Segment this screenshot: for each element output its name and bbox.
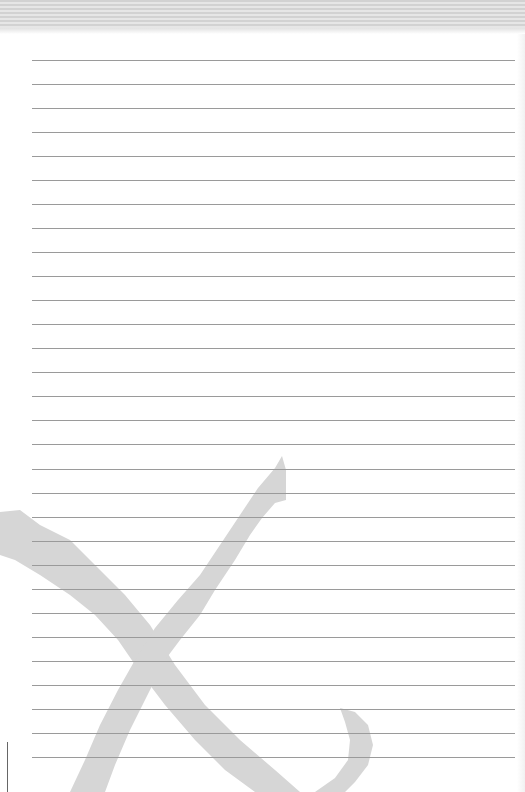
ruled-line bbox=[32, 252, 515, 253]
ruled-line bbox=[32, 637, 515, 638]
ruled-line bbox=[32, 300, 515, 301]
ruled-line bbox=[32, 661, 515, 662]
ruled-line bbox=[32, 541, 515, 542]
ruled-line bbox=[32, 444, 515, 445]
ruled-line bbox=[32, 180, 515, 181]
ruled-line bbox=[32, 469, 515, 470]
ruled-line bbox=[32, 613, 515, 614]
margin-bar bbox=[7, 742, 8, 792]
ruled-line bbox=[32, 108, 515, 109]
ruled-line bbox=[32, 685, 515, 686]
ruled-line bbox=[32, 589, 515, 590]
ruled-line bbox=[32, 204, 515, 205]
ruled-line bbox=[32, 276, 515, 277]
ruled-line bbox=[32, 348, 515, 349]
ruled-line bbox=[32, 757, 515, 758]
ruled-line bbox=[32, 493, 515, 494]
ruled-line bbox=[32, 517, 515, 518]
ruled-line bbox=[32, 60, 515, 61]
ruled-line bbox=[32, 84, 515, 85]
ruled-line bbox=[32, 709, 515, 710]
ruled-line bbox=[32, 228, 515, 229]
ruled-line bbox=[32, 132, 515, 133]
ruled-line bbox=[32, 565, 515, 566]
ruled-line bbox=[32, 396, 515, 397]
ruled-line bbox=[32, 420, 515, 421]
ruled-line bbox=[32, 372, 515, 373]
ruled-line bbox=[32, 156, 515, 157]
ruled-line bbox=[32, 324, 515, 325]
ruled-line bbox=[32, 733, 515, 734]
